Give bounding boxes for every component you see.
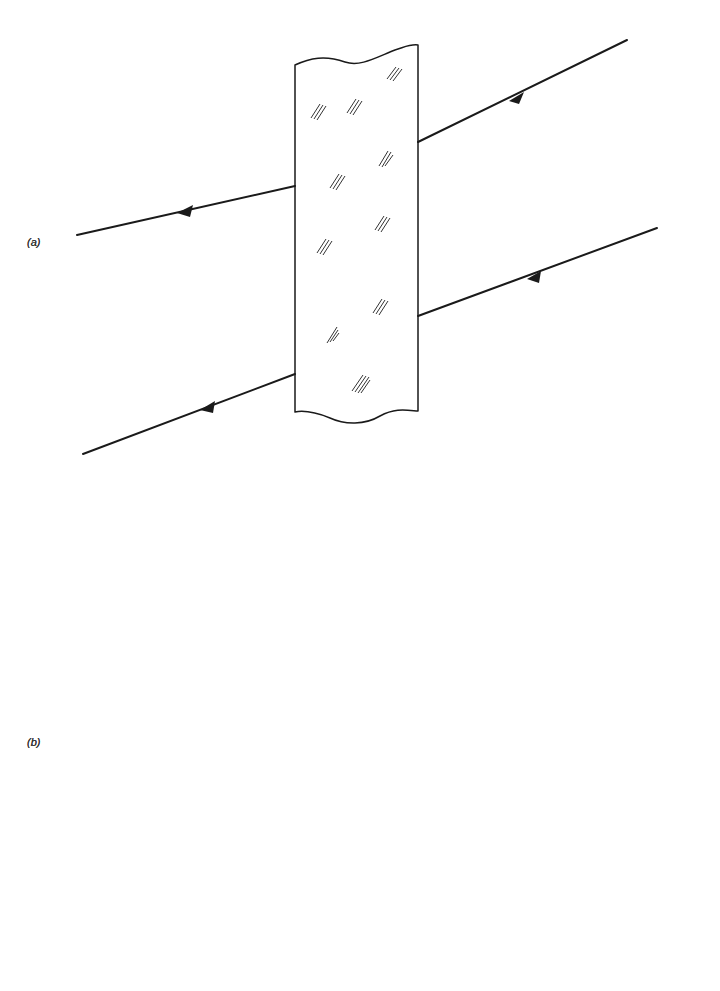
panel-a bbox=[77, 40, 657, 454]
arrow-icon bbox=[200, 401, 215, 413]
glass-slab-a bbox=[295, 45, 418, 423]
panel-label-b: (b) bbox=[27, 736, 40, 748]
optics-diagram bbox=[0, 0, 720, 991]
panel-label-a: (a) bbox=[27, 236, 40, 248]
